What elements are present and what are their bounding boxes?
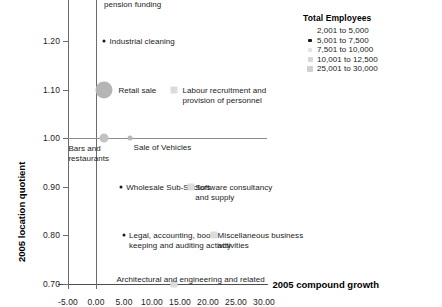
data-point-label: Bars and restaurants xyxy=(68,144,109,164)
data-point-marker[interactable] xyxy=(120,185,123,188)
y-tick-mark xyxy=(63,235,68,236)
y-tick-label: 1.00 xyxy=(26,133,60,143)
zero-growth-line xyxy=(96,0,97,284)
y-axis-title: 2005 location quotient xyxy=(16,161,27,261)
y-tick-label: 1.10 xyxy=(26,85,60,95)
x-tick-mark xyxy=(68,284,69,289)
legend-marker-icon xyxy=(303,57,317,62)
data-point-label: Miscellaneous business activities xyxy=(218,231,304,251)
data-point-label: Software consultancy and supply xyxy=(195,183,272,203)
legend-item-label: 10,001 to 12,500 xyxy=(317,55,378,64)
legend-marker-icon xyxy=(303,39,317,43)
legend-item[interactable]: 7,501 to 10,000 xyxy=(303,45,378,55)
y-tick-mark xyxy=(63,90,68,91)
y-tick-mark xyxy=(63,138,68,139)
data-point-marker[interactable] xyxy=(188,183,195,190)
y-tick-label: 1.20 xyxy=(26,36,60,46)
data-point-marker[interactable] xyxy=(96,81,113,98)
y-tick-mark xyxy=(63,41,68,42)
data-point-label: Labour recruitment and provision of pers… xyxy=(182,86,266,106)
data-point-label: Architectural and engineering and relate… xyxy=(116,275,264,285)
data-point-label: Retail sale xyxy=(118,86,156,96)
x-tick-mark xyxy=(96,284,97,289)
data-point-marker[interactable] xyxy=(103,40,106,43)
legend-item-label: 2,001 to 5,000 xyxy=(317,26,369,35)
y-tick-label: 0.90 xyxy=(26,182,60,192)
legend: Total Employees 2,001 to 5,0005,001 to 7… xyxy=(303,13,378,74)
legend-item[interactable]: 25,001 to 30,000 xyxy=(303,64,378,74)
data-point-label: Insurance and pension funding xyxy=(104,0,161,10)
data-point-marker[interactable] xyxy=(127,136,132,141)
legend-title: Total Employees xyxy=(303,13,378,23)
data-point-label: Sale of Vehicles xyxy=(134,143,192,153)
legend-marker-icon xyxy=(303,66,317,72)
legend-item[interactable]: 2,001 to 5,000 xyxy=(303,26,378,36)
legend-marker-icon xyxy=(303,48,317,52)
x-tick-label: 30.00 xyxy=(244,297,284,307)
y-tick-label: 0.70 xyxy=(26,279,60,289)
data-point-marker[interactable] xyxy=(123,234,126,237)
data-point-marker[interactable] xyxy=(210,232,217,239)
legend-item-label: 7,501 to 10,000 xyxy=(317,45,373,54)
legend-item[interactable]: 5,001 to 7,500 xyxy=(303,36,378,46)
legend-entries: 2,001 to 5,0005,001 to 7,5007,501 to 10,… xyxy=(303,26,378,74)
x-axis-title: 2005 compound growth xyxy=(272,279,379,290)
legend-item-label: 25,001 to 30,000 xyxy=(317,64,378,73)
legend-item[interactable]: 10,001 to 12,500 xyxy=(303,55,378,65)
legend-marker-icon xyxy=(303,29,317,32)
y-tick-label: 0.80 xyxy=(26,230,60,240)
data-point-marker[interactable] xyxy=(100,134,109,143)
y-axis-line xyxy=(68,0,69,284)
legend-item-label: 5,001 to 7,500 xyxy=(317,36,369,45)
data-point-label: Industrial cleaning xyxy=(109,37,174,47)
data-point-marker[interactable] xyxy=(171,86,178,93)
unit-quotient-line xyxy=(68,138,267,139)
y-tick-mark xyxy=(63,187,68,188)
